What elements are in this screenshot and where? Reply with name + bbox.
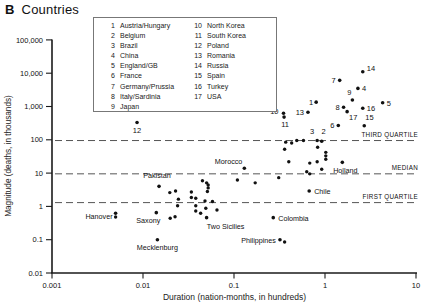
point-number-label-belgium: 2	[322, 127, 326, 136]
figure-title: BCountries	[5, 2, 79, 17]
data-point-china	[356, 87, 360, 91]
figure-countries-scatter: BCountries Magnitude (deaths, in thousan…	[0, 0, 424, 307]
data-point	[283, 148, 286, 151]
y-tick-label: 100,000	[16, 36, 43, 45]
data-point	[316, 145, 319, 148]
point-number-label-italy-sardinia: 8	[335, 103, 339, 112]
data-point	[302, 139, 305, 142]
point-number-label-spain: 15	[365, 113, 373, 122]
legend-entry-poland: 12Poland	[190, 41, 246, 51]
data-point-chile	[307, 189, 311, 193]
legend-entry-number: 5	[103, 61, 115, 71]
y-tick-label: 10	[35, 169, 43, 178]
point-name-label-holland: Holland	[333, 166, 357, 175]
point-name-label-two-sicilies: Two Sicilies	[207, 222, 245, 231]
data-point-saxony	[154, 211, 158, 215]
data-point	[315, 160, 318, 163]
data-point	[215, 208, 218, 211]
data-point	[305, 170, 308, 173]
point-name-label-colombia: Colombia	[278, 214, 308, 223]
legend-entry-name: Germany/Prussia	[120, 82, 174, 92]
point-number-label-england-gb: 5	[387, 99, 391, 108]
data-point-holland	[341, 161, 345, 165]
data-point	[287, 160, 290, 163]
data-point	[308, 161, 311, 164]
legend-entry-italy-sardinia: 8Italy/Sardinia	[103, 92, 174, 102]
y-tick-label: 0.1	[33, 235, 43, 244]
data-point	[206, 183, 209, 186]
legend-entry-number: 17	[190, 92, 202, 102]
point-number-label-japan: 9	[347, 88, 351, 97]
point-number-label-south-korea: 11	[281, 120, 289, 129]
legend-entry-name: Japan	[120, 102, 139, 112]
data-point-two-sicilies	[205, 216, 209, 220]
legend-entry-number: 3	[103, 41, 115, 51]
point-number-label-brazil: 3	[310, 127, 314, 136]
legend-entry-name: USA	[207, 92, 221, 102]
legend-entry-number: 8	[103, 92, 115, 102]
x-tick-label: 0.001	[43, 281, 62, 290]
legend-entry-france: 6France	[103, 71, 174, 81]
data-point-austria-hungary	[314, 100, 318, 104]
data-point-south-korea	[282, 115, 286, 119]
legend-entry-austria-hungary: 1Austria/Hungary	[103, 21, 174, 31]
legend-entry-name: South Korea	[207, 31, 246, 41]
point-number-label-turkey: 16	[367, 104, 375, 113]
data-point-hanover	[114, 212, 118, 216]
x-axis-title: Duration (nation-months, in hundreds)	[52, 292, 417, 302]
data-point	[194, 197, 197, 200]
x-tick-label: 0.01	[136, 281, 151, 290]
x-tick-label: 0.1	[229, 281, 239, 290]
point-name-label-hanover: Hanover	[85, 212, 113, 221]
y-tick-label: 10,000	[20, 69, 43, 78]
y-tick-label: 0.01	[28, 269, 43, 278]
legend-column-1: 1Austria/Hungary2Belgium3Brazil4China5En…	[103, 21, 174, 112]
legend-entry-number: 10	[190, 21, 202, 31]
legend-entry-name: Brazil	[120, 41, 138, 51]
legend-entry-name: China	[120, 51, 138, 61]
legend-entry-number: 2	[103, 31, 115, 41]
legend-entry-name: Belgium	[120, 31, 145, 41]
legend-entry-romania: 13Romania	[190, 51, 246, 61]
data-point-japan	[351, 98, 355, 102]
reference-label-third-quartile: THIRD QUARTILE	[361, 131, 418, 139]
data-point-spain	[362, 124, 366, 128]
point-name-label-pakistan: Pakistan	[143, 171, 171, 180]
data-point-morocco	[243, 166, 247, 170]
data-point	[176, 204, 179, 207]
y-tick-label: 1,000	[24, 102, 43, 111]
y-axis-title: Magnitude (deaths, in thousands)	[4, 56, 20, 256]
data-point-north-korea	[282, 111, 286, 115]
point-number-label-russia: 14	[367, 64, 375, 73]
figure-title-text: Countries	[22, 2, 79, 17]
data-point-brazil	[315, 139, 319, 143]
legend-entry-germany-prussia: 7Germany/Prussia	[103, 82, 174, 92]
point-number-label-poland: 12	[133, 126, 141, 135]
x-tick-label: 1	[323, 281, 327, 290]
data-point	[173, 215, 176, 218]
data-point	[204, 207, 207, 210]
legend-entry-name: Austria/Hungary	[120, 21, 170, 31]
data-point	[194, 209, 197, 212]
data-point	[174, 189, 177, 192]
data-point	[277, 176, 280, 179]
legend-entry-number: 12	[190, 41, 202, 51]
legend-entry-name: Turkey	[207, 82, 228, 92]
legend-entry-name: North Korea	[207, 21, 245, 31]
legend-entry-name: Poland	[207, 41, 229, 51]
point-number-label-romania: 13	[296, 108, 304, 117]
legend-entry-number: 14	[190, 61, 202, 71]
point-number-label-china: 4	[362, 84, 366, 93]
y-tick-label: 1	[39, 202, 43, 211]
legend-entry-brazil: 3Brazil	[103, 41, 174, 51]
data-point	[324, 158, 327, 161]
data-point	[324, 151, 327, 154]
reference-label-first-quartile: FIRST QUARTILE	[363, 193, 418, 201]
data-point	[206, 186, 209, 189]
point-name-label-saxony: Saxony	[136, 216, 160, 225]
point-name-label-morocco: Morocco	[215, 157, 243, 166]
data-point	[168, 217, 171, 220]
legend-entry-number: 11	[190, 31, 202, 41]
data-point	[194, 204, 197, 207]
data-point	[320, 168, 323, 171]
